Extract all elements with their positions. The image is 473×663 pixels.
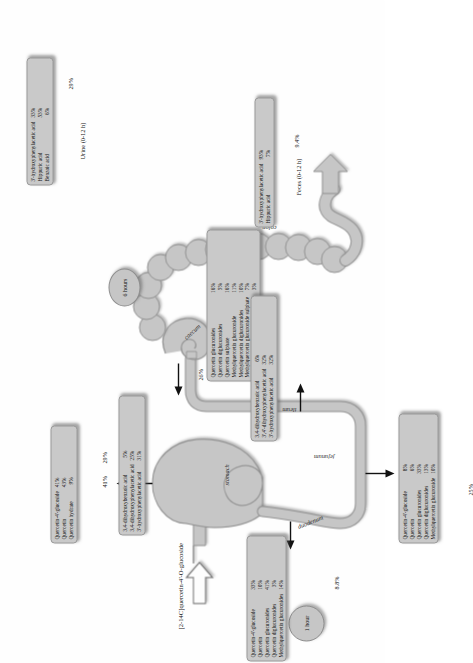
compound-name: Methylquercetin glucuronide sulphate bbox=[243, 296, 250, 377]
recovery-pct-duodenum: 8.8% bbox=[332, 576, 339, 589]
recovery-pct-urine: 29% bbox=[66, 78, 73, 89]
box-row: Quercetin hydrate9% bbox=[67, 477, 74, 539]
box-row: 3',4'-dihydroxyphenylacetic acid32% bbox=[260, 354, 267, 437]
box-row: 3'-hydroxyphenylacetic acid33% bbox=[29, 107, 36, 181]
compound-value: 53% bbox=[36, 107, 43, 121]
compound-name: Quercetin diglucuronides bbox=[216, 296, 223, 377]
compound-name: Quercetin-4'-glucoside bbox=[53, 491, 60, 539]
compound-value: 31% bbox=[135, 450, 142, 464]
compound-name: 3'-hydroxyphenylacetic acid bbox=[267, 368, 274, 437]
compound-value: 7% bbox=[264, 149, 271, 163]
compound-name: 3'-hydroxyphenylacetic acid bbox=[29, 121, 36, 181]
box-table: 3'-hydroxyphenylacetic acid33%Hippuric a… bbox=[29, 107, 50, 181]
box-row: Quercetin43% bbox=[60, 477, 67, 539]
feces-box: 3'-hydroxyphenylacetic acid93%Hippuric a… bbox=[254, 97, 274, 227]
jejunum-arrow bbox=[365, 469, 394, 477]
compound-value: 14% bbox=[277, 580, 284, 594]
organ-label-jejunum: jejunum bbox=[313, 453, 334, 460]
box-table: 3,4-dihydroxybenzoic acid5%3,4-dihydroxy… bbox=[121, 450, 142, 531]
compound-name: Hippuric acid bbox=[264, 163, 271, 223]
box-row: Quercetin diglucuronides5% bbox=[216, 283, 223, 377]
box-row: Quercetin glucuronides16% bbox=[209, 283, 216, 377]
duodenum-box: Quercetin-4'-glucoside33%Quercetin10%Que… bbox=[246, 535, 286, 661]
compound-value: 32% bbox=[260, 354, 267, 368]
compound-value: 41% bbox=[263, 580, 270, 594]
box-row: 3'-hydroxyphenylacetic acid93% bbox=[257, 149, 264, 223]
compound-value: 16% bbox=[209, 283, 216, 297]
compound-name: Quercetin diglucuronides bbox=[422, 477, 429, 539]
compound-name: Quercetin glucuronides bbox=[209, 296, 216, 377]
box-row: 3'-hydroxyphenylacetic acid31% bbox=[135, 450, 142, 531]
box-row: Quercetin-4'-glucoside41% bbox=[53, 477, 60, 539]
compound-name: Quercetin glucuronides bbox=[415, 477, 422, 539]
urine-box: 3'-hydroxyphenylacetic acid33%Hippuric a… bbox=[26, 57, 53, 185]
recovery-pct-stomach: 41% bbox=[100, 476, 107, 487]
compound-value: 33% bbox=[29, 107, 36, 121]
box-rows: 3'-hydroxyphenylacetic acid33%Hippuric a… bbox=[29, 107, 50, 181]
box-rows: 3,4-dihydroxybenzoic acid6%3',4'-dihydro… bbox=[253, 354, 274, 437]
compound-value: 5% bbox=[121, 450, 128, 464]
box-table: Quercetin-4'-glucoside8%Quercetin6%Querc… bbox=[401, 464, 435, 539]
box-table: 3,4-dihydroxybenzoic acid6%3',4'-dihydro… bbox=[253, 354, 274, 437]
box-row: Benzoic acid6% bbox=[43, 107, 50, 181]
box-table: 3'-hydroxyphenylacetic acid93%Hippuric a… bbox=[257, 149, 271, 223]
compound-value: 41% bbox=[53, 477, 60, 491]
compound-name: Methylquercetin glucuronide bbox=[230, 296, 237, 377]
compound-name: Quercetin diglucuronides bbox=[270, 593, 277, 657]
compound-value: 13% bbox=[422, 464, 429, 478]
box-row: Hippuric acid7% bbox=[264, 149, 271, 223]
compound-name: Quercetin bbox=[60, 491, 67, 539]
compound-value: 33% bbox=[415, 464, 422, 478]
compound-value: 6% bbox=[408, 464, 415, 478]
compound-name: Quercetin hydrate bbox=[67, 491, 74, 539]
box-row: 3,4-dihydroxyphenylacetic acid25% bbox=[128, 450, 135, 531]
compound-name: 3'-hydroxyphenylacetic acid bbox=[257, 163, 264, 223]
compound-value: 3% bbox=[270, 580, 277, 594]
compound-value: 10% bbox=[237, 283, 244, 297]
compound-value: 8% bbox=[401, 464, 408, 478]
compound-value: 7% bbox=[243, 283, 250, 297]
box-row: Quercetin sulphate16% bbox=[223, 283, 230, 377]
box-row: Quercetin6% bbox=[408, 464, 415, 539]
box-row: Hippuric acid53% bbox=[36, 107, 43, 181]
box-row: 3'-hydroxyphenylacetic acid32% bbox=[267, 354, 274, 437]
compound-value: 3% bbox=[250, 283, 257, 297]
compound-value: 32% bbox=[267, 354, 274, 368]
caecum-box: 3,4-dihydroxybenzoic acid5%3,4-dihydroxy… bbox=[118, 395, 145, 535]
compound-name: Methylquercetin glucuronide bbox=[429, 477, 436, 539]
box-row: Quercetin-4'-glucoside33% bbox=[249, 580, 256, 657]
box-row: Methylquercetin glucuronide11% bbox=[230, 283, 237, 377]
jejunum-box: Quercetin-4'-glucoside8%Quercetin6%Querc… bbox=[398, 413, 438, 543]
recovery-pct-feces: 9.4% bbox=[292, 134, 299, 147]
compound-value: 5% bbox=[216, 283, 223, 297]
time-marker-label: 6 hours bbox=[121, 278, 127, 296]
compound-name: 3'-hydroxyphenylacetic acid bbox=[135, 464, 142, 531]
compound-name: 3,4-dihydroxybenzoic acid bbox=[253, 368, 260, 437]
compound-value: 16% bbox=[223, 283, 230, 297]
caecum-arrow bbox=[174, 363, 182, 395]
urine-caption: Urine (0-12 h) bbox=[78, 122, 85, 159]
compound-value: 33% bbox=[249, 580, 256, 594]
time-marker-1-hour: 1 hour bbox=[288, 605, 324, 641]
box-rows: Quercetin-4'-glucoside33%Quercetin10%Que… bbox=[249, 580, 283, 657]
feces-caption: Feces (0-12 h) bbox=[294, 158, 301, 195]
box-table: Quercetin-4'-glucoside41%Quercetin43%Que… bbox=[53, 477, 74, 539]
compound-value: 93% bbox=[257, 149, 264, 163]
box-rows: 3,4-dihydroxybenzoic acid5%3,4-dihydroxy… bbox=[121, 450, 142, 531]
box-row: Methylquercetin glucuronide10% bbox=[429, 464, 436, 539]
stomach-shape bbox=[152, 439, 262, 563]
box-row: Methylquercetin diglucuronides10% bbox=[237, 283, 244, 377]
box-row: Quercetin diglucuronides13% bbox=[422, 464, 429, 539]
compound-value: 6% bbox=[43, 107, 50, 121]
box-rows: Quercetin-4'-glucoside8%Quercetin6%Querc… bbox=[401, 464, 435, 539]
compound-value: 9% bbox=[67, 477, 74, 491]
box-row: 3,4-dihydroxybenzoic acid6% bbox=[253, 354, 260, 437]
time-marker-label: 1 hour bbox=[303, 615, 309, 631]
compound-name: Quercetin glucuronides bbox=[263, 593, 270, 657]
recovery-pct-ileum: 26% bbox=[196, 369, 203, 380]
box-row: Quercetin glucuronides33% bbox=[415, 464, 422, 539]
intake-arrow bbox=[186, 562, 212, 603]
box-row: Methylquercetin glucuronides14% bbox=[277, 580, 284, 657]
